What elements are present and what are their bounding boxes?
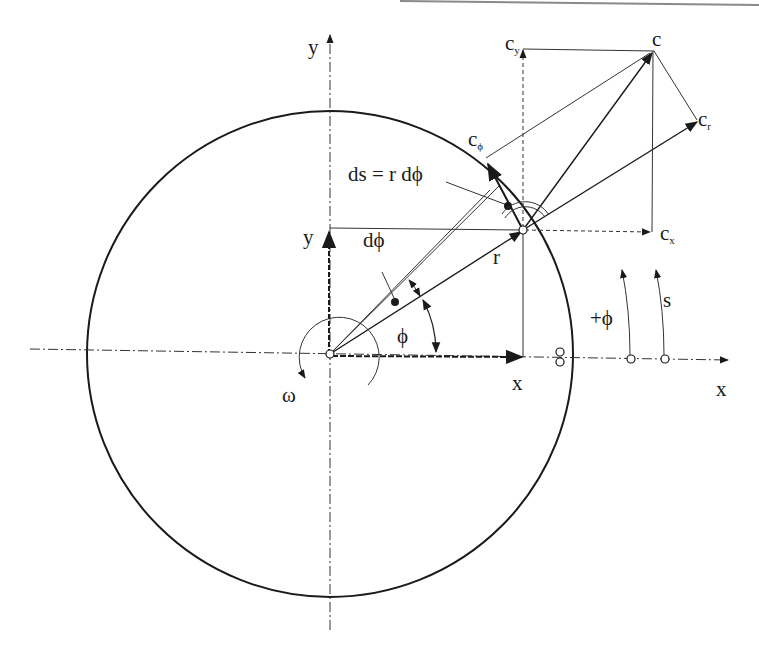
ds-leader (446, 182, 507, 205)
s-arrow (656, 270, 664, 355)
phi-label: ϕ (397, 324, 408, 348)
plus-phi-origin (627, 355, 635, 363)
y-projection-line (330, 228, 521, 230)
plus-phi-label: +ϕ (590, 306, 613, 330)
cphi-to-c-line (486, 53, 650, 158)
point-p (519, 226, 527, 234)
c-r-vector (523, 122, 697, 230)
plus-phi-arrow (622, 270, 630, 355)
x-axis-label: x (716, 377, 727, 401)
c-r-label: cr (698, 107, 711, 132)
c-y-label: cy (505, 31, 520, 56)
c-label: c (652, 27, 661, 51)
s-origin (661, 355, 669, 363)
c-to-cx-line (652, 51, 653, 232)
top-rule (400, 1, 759, 5)
c-x-vector (525, 230, 650, 232)
dphi-arc (409, 280, 420, 296)
dphi-radius-line (330, 190, 490, 354)
c-to-cr-line (654, 51, 697, 120)
y-axis-label: y (308, 35, 319, 59)
c-phi-vector (488, 164, 523, 230)
c-vector (523, 53, 652, 230)
c-x-label: cx (660, 221, 675, 246)
arc-length-label: ds = r dϕ (348, 162, 423, 186)
x-component-arrow (332, 356, 522, 357)
phi-arc (423, 300, 436, 352)
radius-label: r (493, 245, 500, 269)
circle-x-intercept-top (556, 348, 564, 356)
origin-point (326, 350, 334, 358)
dphi-radius-line-2 (330, 185, 500, 354)
diagram-canvas: y x y x r ϕ dϕ ds = r dϕ ω +ϕ s c cy cx … (0, 0, 759, 652)
dphi-label: dϕ (363, 228, 385, 252)
omega-arrow (299, 317, 379, 385)
circle-x-intercept-bottom (556, 358, 564, 366)
omega-label: ω (282, 383, 296, 407)
c-phi-label: cϕ (468, 127, 483, 152)
s-label: s (663, 288, 671, 312)
y-component-label: y (303, 225, 314, 249)
cy-to-c-line (523, 49, 654, 51)
x-component-label: x (512, 371, 523, 395)
